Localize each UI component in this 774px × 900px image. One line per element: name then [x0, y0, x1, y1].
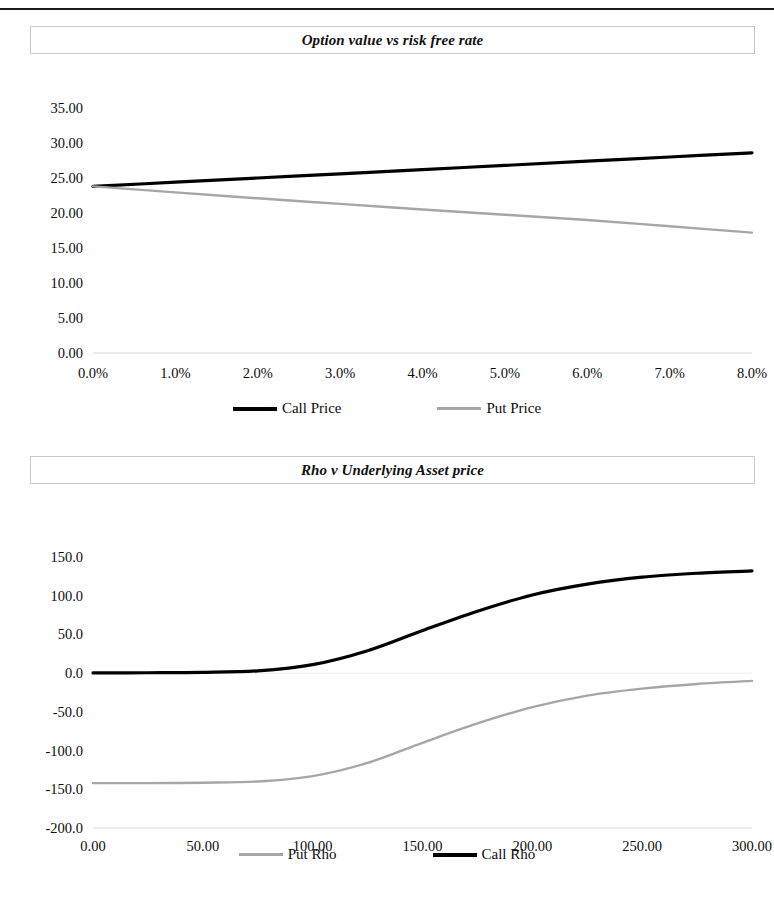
legend-item[interactable]: Call Price [233, 400, 342, 417]
legend-swatch-icon [233, 407, 277, 411]
plot-area-wrapper: 150.0100.050.00.0-50.0-100.0-150.0-200.0… [0, 494, 774, 834]
legend-item[interactable]: Put Rho [239, 846, 337, 863]
plot-svg [0, 494, 774, 834]
series-line-put-rho [93, 681, 752, 783]
chart-legend: Call PricePut Price [0, 400, 774, 417]
series-line-call-price [93, 153, 752, 187]
chart-title-box: Option value vs risk free rate [30, 26, 755, 54]
legend-swatch-icon [433, 853, 477, 857]
legend-label: Put Rho [288, 846, 337, 863]
series-line-put-price [93, 186, 752, 232]
legend-item[interactable]: Put Price [437, 400, 541, 417]
chart-title: Rho v Underlying Asset price [301, 462, 484, 479]
series-line-call-rho [93, 571, 752, 673]
legend-swatch-icon [239, 853, 283, 856]
chart-title-box: Rho v Underlying Asset price [30, 456, 755, 484]
legend-label: Call Price [282, 400, 342, 417]
chart-legend: Put RhoCall Rho [0, 846, 774, 863]
chart-option-value-vs-risk-free-rate: Option value vs risk free rate 35.0030.0… [0, 18, 774, 438]
plot-area-wrapper: 35.0030.0025.0020.0015.0010.005.000.00 0… [0, 70, 774, 390]
legend-label: Call Rho [482, 846, 536, 863]
page-root: Option value vs risk free rate 35.0030.0… [0, 0, 774, 900]
chart-title: Option value vs risk free rate [302, 32, 484, 49]
legend-label: Put Price [486, 400, 541, 417]
plot-svg [0, 70, 774, 390]
legend-swatch-icon [437, 407, 481, 410]
page-top-rule [0, 8, 774, 10]
chart-rho-v-underlying-asset-price: Rho v Underlying Asset price 150.0100.05… [0, 450, 774, 890]
legend-item[interactable]: Call Rho [433, 846, 536, 863]
